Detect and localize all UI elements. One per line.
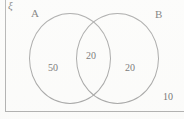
region-value-intersection: 20 [86,50,96,62]
region-value-outside: 10 [163,91,173,103]
venn-diagram-figure: ξ A B 50 20 20 10 [0,0,184,119]
region-value-b-only: 20 [125,62,135,74]
region-value-a-only: 50 [48,62,58,74]
set-label-a: A [31,7,39,19]
set-label-b: B [155,8,162,20]
universal-set-symbol: ξ [8,0,13,12]
